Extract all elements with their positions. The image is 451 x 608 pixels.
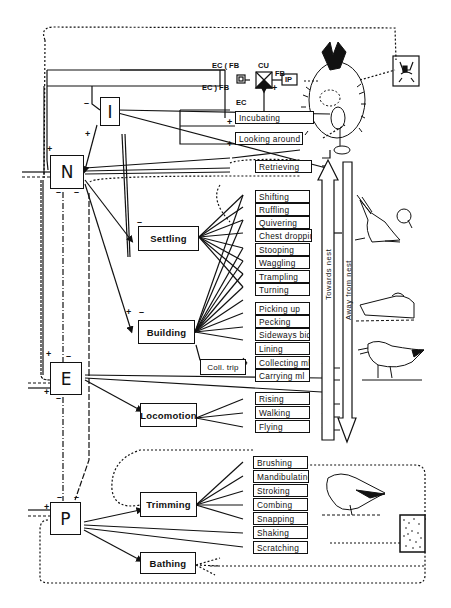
system-box-i: I <box>100 97 120 126</box>
behaviour-mandibulating: Mandibulating <box>253 470 309 483</box>
activity-box-trimming: Trimming <box>140 492 197 517</box>
behaviour-looking-around: Looking around <box>235 132 303 145</box>
sign-plus: + <box>227 140 232 149</box>
behaviour-scratching: Scratching <box>253 541 308 554</box>
activity-box-locomotion: Locomotion <box>140 403 197 427</box>
pecking-bird-illustration <box>356 293 416 321</box>
system-box-n: N <box>50 155 84 189</box>
behaviour-quivering: Quivering <box>255 216 310 229</box>
behaviour-collecting-ml: Collecting ml <box>255 356 310 369</box>
cu-label: CU <box>258 61 269 70</box>
activity-box-settling: Settling <box>138 226 199 251</box>
away-from-nest-label: Away from nest <box>344 260 353 320</box>
activity-box-coll-trip: Coll. trip <box>200 359 246 375</box>
sign-minus: – <box>56 188 61 197</box>
sign-minus: – <box>56 394 61 403</box>
behaviour-rising: Rising <box>255 392 310 405</box>
behaviour-walking: Walking <box>255 406 310 419</box>
sign-plus: + <box>126 308 131 317</box>
behaviour-carrying-ml: Carrying ml <box>255 369 310 382</box>
activity-box-building: Building <box>138 320 195 344</box>
behaviour-pecking: Pecking <box>255 315 310 328</box>
bird-carrying-material-illustration <box>358 341 424 380</box>
sign-plus: + <box>46 350 51 359</box>
settling-bird-illustration <box>355 195 412 242</box>
behaviour-snapping: Snapping <box>253 512 308 525</box>
preening-bird-illustration <box>322 474 385 515</box>
behaviour-incubating: Incubating <box>235 111 314 124</box>
behaviour-trampling: Trampling <box>255 270 310 283</box>
behaviour-shifting: Shifting <box>255 190 310 203</box>
sign-minus: – <box>84 99 89 108</box>
behaviour-brushing: Brushing <box>253 456 308 469</box>
towards-nest-arrow <box>318 160 338 440</box>
system-box-p: P <box>50 502 81 535</box>
sign-plus: + <box>272 84 277 93</box>
behaviour-combing: Combing <box>253 498 308 511</box>
ec-fb-top-label: EC ( FB <box>212 61 239 70</box>
activity-box-bathing: Bathing <box>140 552 196 574</box>
behaviour-shaking: Shaking <box>253 526 308 539</box>
behaviour-stooping: Stooping <box>255 243 310 256</box>
behaviour-stroking: Stroking <box>253 484 308 497</box>
towards-nest-label: Towards nest <box>324 249 333 300</box>
sign-minus: – <box>74 493 79 502</box>
sign-plus: + <box>85 130 90 139</box>
sign-minus: – <box>137 218 142 227</box>
behaviour-turning: Turning <box>255 283 310 296</box>
incubating-bird-illustration <box>301 42 366 154</box>
sign-minus: – <box>66 352 71 361</box>
ec-fb-bottom-label: EC ) FB <box>202 83 229 92</box>
behaviour-flying: Flying <box>255 420 310 433</box>
stippled-stimulus-box <box>400 515 425 552</box>
behaviour-chest-dropping: Chest dropping <box>255 229 312 242</box>
sign-plus: + <box>227 118 232 127</box>
sign-plus: + <box>44 388 49 397</box>
behaviour-picking-up: Picking up <box>255 302 310 315</box>
sign-minus: – <box>139 308 144 317</box>
ec-label: EC <box>236 98 246 107</box>
behaviour-sideways-bid: Sideways bid <box>255 328 310 341</box>
fb-label: FB <box>275 69 285 78</box>
behaviour-ruffling: Ruffling <box>255 203 310 216</box>
behaviour-lining: Lining <box>255 342 310 355</box>
ip-label: IP <box>285 75 292 84</box>
bird-head-stimulus-illustration <box>393 56 419 86</box>
sign-plus: + <box>44 503 49 512</box>
behaviour-retrieving: Retrieving <box>255 160 312 173</box>
behaviour-waggling: Waggling <box>255 256 310 269</box>
system-box-e: E <box>50 362 82 395</box>
sign-minus: – <box>74 188 79 197</box>
sign-plus: + <box>47 145 52 154</box>
sign-minus: – <box>57 493 62 502</box>
